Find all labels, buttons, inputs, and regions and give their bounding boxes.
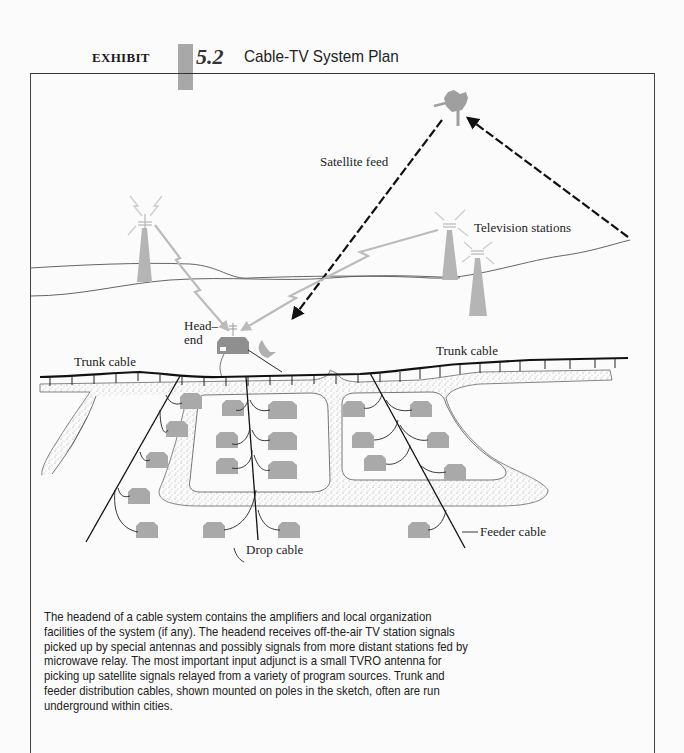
house-icon [444,464,466,480]
caption-line: facilities of the system (if any). The h… [44,625,481,640]
house-icon [278,522,300,538]
caption-line: feeder distribution cables, shown mounte… [44,684,481,699]
trunk-cable-label-left: Trunk cable [74,354,136,369]
caption-line: picked up by special antennas and possib… [44,640,481,655]
television-stations-label: Television stations [474,220,571,235]
house-icon [268,432,297,450]
house-icon [352,432,374,448]
tv-tower-icon [435,210,468,280]
house-icon [216,458,238,474]
exhibit-caption: The headend of a cable system contains t… [44,610,481,714]
feeder-cable-label: Feeder cable [480,524,546,539]
headend-label-line1: Head– [184,318,218,333]
house-icon [128,488,150,504]
tv-tower-icon [128,196,162,282]
house-icon [364,455,386,471]
satellite-icon [434,90,468,126]
caption-line: microwave relay. The most important inpu… [44,654,481,669]
house-icon [427,432,449,448]
headend-label-line2: end [184,332,203,347]
house-icon [222,400,244,416]
house-icon [408,522,430,538]
caption-line: underground within cities. [44,699,481,714]
drop-cable-label: Drop cable [246,542,304,557]
house-icon [268,401,297,419]
house-icon [216,432,238,448]
house-icon [166,421,188,437]
house-icon [410,401,432,417]
satellite-feed-label: Satellite feed [320,154,389,169]
house-icon [343,401,365,417]
caption-line: picking up satellite signals relayed fro… [44,669,481,684]
house-icon [136,522,158,538]
tv-tower-icon [462,242,494,316]
cable-tv-illustration: Satellite feed Television stations Head–… [0,0,684,600]
house-icon [203,522,225,538]
caption-line: The headend of a cable system contains t… [44,610,481,625]
tvro-dish-icon [259,340,276,358]
house-icon [268,461,297,479]
house-icon [180,393,202,409]
trunk-cable-label-right: Trunk cable [436,343,498,358]
